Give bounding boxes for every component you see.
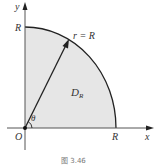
radius-label: r = R [73, 30, 95, 41]
y-axis-arrow-icon [23, 2, 28, 10]
origin-label: O [15, 131, 22, 142]
angle-label: θ [31, 113, 36, 123]
x-axis-label: x [144, 131, 150, 142]
origin-point [23, 126, 27, 130]
x-axis-arrow-icon [146, 126, 154, 131]
region-label-main: D [70, 86, 79, 98]
x-intercept-label: R [111, 131, 118, 142]
region-d-r [25, 27, 116, 128]
y-intercept-label: R [14, 22, 21, 33]
figure-caption: 图 3.46 [61, 157, 86, 165]
quarter-disk-diagram: y R r = R DR θ O R x 图 3.46 [0, 0, 160, 165]
region-label-subscript: R [78, 92, 84, 100]
y-axis-label: y [14, 1, 20, 12]
